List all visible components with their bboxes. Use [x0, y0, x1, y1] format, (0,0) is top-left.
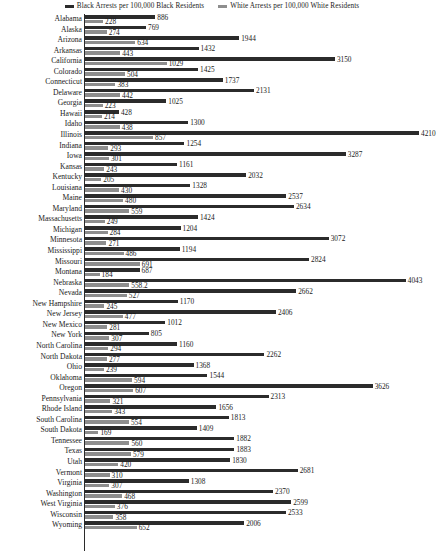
bar-black: [85, 363, 194, 367]
bar-group: 2681310: [85, 468, 421, 479]
state-label: Indiana: [0, 141, 82, 152]
bar-white: [85, 304, 104, 308]
bar-value-black: 1813: [231, 414, 246, 421]
bar-row: Tennessee1882560: [0, 436, 424, 447]
bar-row: Maine2537480: [0, 193, 424, 204]
state-label: Alabama: [0, 14, 82, 25]
bar-white: [85, 125, 120, 129]
bar-value-black: 1194: [182, 246, 196, 253]
bar-black: [85, 226, 181, 230]
bar-black: [85, 237, 329, 241]
bar-black: [85, 437, 234, 441]
bar-white: [85, 357, 107, 361]
bar-value-black: 2662: [298, 288, 313, 295]
bar-black: [85, 258, 309, 262]
bar-row: Washington2370468: [0, 489, 424, 500]
bar-value-black: 428: [121, 109, 132, 116]
state-label: Vermont: [0, 468, 82, 479]
bar-row: Connecticut1737383: [0, 77, 424, 88]
bar-value-white: 652: [139, 524, 150, 531]
bar-black: [85, 342, 177, 346]
state-label: Louisiana: [0, 183, 82, 194]
bar-row: Minnesota3072271: [0, 235, 424, 246]
bar-black: [85, 416, 229, 420]
bar-black: [85, 521, 244, 525]
bar-black: [85, 310, 276, 314]
bar-value-black: 1424: [200, 214, 215, 221]
bar-black: [85, 121, 188, 125]
bar-row: Nevada2662527: [0, 288, 424, 299]
bar-black: [85, 205, 294, 209]
bar-value-black: 2634: [296, 203, 311, 210]
bar-row: Michigan1204284: [0, 225, 424, 236]
bar-white: [85, 83, 115, 87]
bar-value-black: 1409: [199, 425, 214, 432]
bar-white: [85, 20, 103, 24]
bar-value-black: 3072: [331, 235, 346, 242]
bar-value-black: 2370: [275, 488, 290, 495]
bar-black: [85, 68, 198, 72]
bar-row: Oregon3626607: [0, 383, 424, 394]
bar-group: 1012281: [85, 320, 421, 331]
state-label: Virginia: [0, 478, 82, 489]
state-label: Kansas: [0, 162, 82, 173]
bar-group: 31501029: [85, 56, 421, 67]
bar-black: [85, 479, 189, 483]
state-label: Delaware: [0, 88, 82, 99]
bar-row: West Virginia2599376: [0, 499, 424, 510]
bar-group: 428214: [85, 109, 421, 120]
bar-group: 1025223: [85, 98, 421, 109]
bar-white: [85, 136, 153, 140]
bar-value-black: 3287: [348, 151, 363, 158]
bar-black: [85, 36, 239, 40]
bar-black: [85, 57, 335, 61]
state-label: Oklahoma: [0, 373, 82, 384]
state-label: Pennsylvania: [0, 394, 82, 405]
state-label: Nevada: [0, 288, 82, 299]
bar-white: [85, 389, 133, 393]
bar-value-black: 1204: [183, 225, 198, 232]
bar-group: 2370468: [85, 489, 421, 500]
state-label: Ohio: [0, 362, 82, 373]
bar-row: Rhode Island1656343: [0, 404, 424, 415]
bar-white: [85, 410, 112, 414]
bar-row: Iowa3287301: [0, 151, 424, 162]
bar-white: [85, 325, 107, 329]
bar-black: [85, 490, 273, 494]
bar-value-black: 1883: [236, 446, 251, 453]
bar-black: [85, 384, 373, 388]
bar-row: Alabama886228: [0, 14, 424, 25]
bar-row: North Carolina1160294: [0, 341, 424, 352]
bar-group: 2406477: [85, 309, 421, 320]
state-label: Tennessee: [0, 436, 82, 447]
bar-group: 2131442: [85, 88, 421, 99]
bar-row: Oklahoma1544594: [0, 373, 424, 384]
bar-black: [85, 89, 254, 93]
bar-group: 1813554: [85, 415, 421, 426]
bar-white: [85, 294, 127, 298]
bar-white: [85, 526, 137, 530]
bar-black: [85, 458, 230, 462]
bar-white: [85, 231, 108, 235]
bar-white: [85, 273, 100, 277]
state-label: Idaho: [0, 119, 82, 130]
bar-row: Wyoming2006652: [0, 520, 424, 531]
state-label: Iowa: [0, 151, 82, 162]
state-label: Wyoming: [0, 520, 82, 531]
bar-group: 4210857: [85, 130, 421, 141]
bar-group: 1432443: [85, 46, 421, 57]
bar-value-black: 1737: [225, 77, 240, 84]
bar-row: Mississippi1194486: [0, 246, 424, 257]
bar-group: 2032205: [85, 172, 421, 183]
bar-white: [85, 431, 98, 435]
bar-row: Delaware2131442: [0, 88, 424, 99]
bar-value-black: 2537: [288, 193, 303, 200]
bar-row: Arkansas1432443: [0, 46, 424, 57]
state-label: North Dakota: [0, 352, 82, 363]
bar-value-black: 886: [157, 14, 168, 21]
bar-group: 1160294: [85, 341, 421, 352]
bar-value-black: 1170: [180, 298, 194, 305]
bar-black: [85, 15, 155, 19]
legend-swatch-black-icon: [65, 5, 74, 9]
